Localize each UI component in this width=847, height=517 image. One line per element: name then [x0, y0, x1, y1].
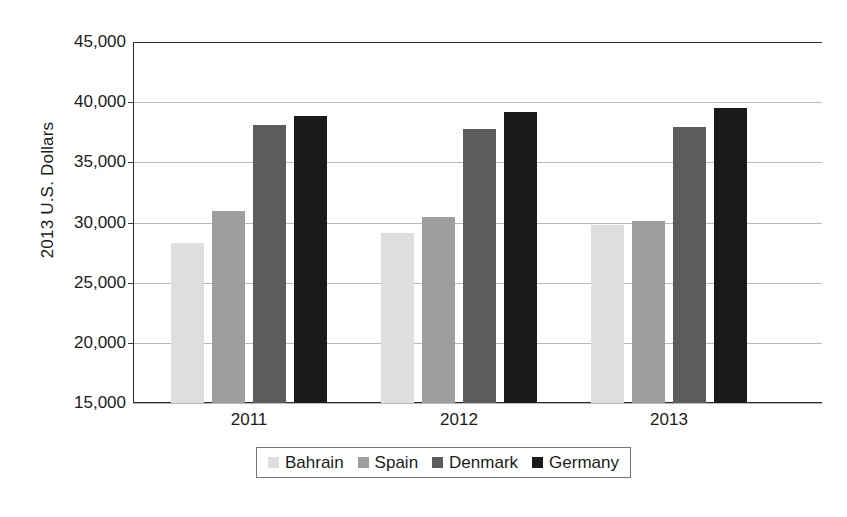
- gridline: [133, 102, 822, 103]
- legend: BahrainSpainDenmarkGermany: [256, 447, 631, 478]
- bar-germany-2011: [294, 116, 327, 403]
- bar-germany-2012: [504, 112, 537, 403]
- y-axis-tick-label: 40,000: [40, 92, 126, 112]
- y-axis-tick-label: 20,000: [40, 333, 126, 353]
- x-axis-tick-labels: 201120122013: [133, 410, 822, 438]
- legend-item-germany: Germany: [532, 453, 619, 473]
- x-axis-tick-label: 2013: [609, 410, 729, 430]
- bar-bahrain-2012: [381, 233, 414, 403]
- y-axis-tick-label: 15,000: [40, 393, 126, 413]
- legend-label: Denmark: [449, 453, 518, 473]
- legend-label: Spain: [375, 453, 418, 473]
- gridline: [133, 42, 822, 43]
- x-axis-tick-label: 2012: [399, 410, 519, 430]
- legend-item-spain: Spain: [358, 453, 418, 473]
- legend-label: Bahrain: [285, 453, 344, 473]
- gridline: [133, 403, 822, 404]
- bar-denmark-2013: [673, 127, 706, 403]
- y-axis-tick-label: 35,000: [40, 152, 126, 172]
- legend-label: Germany: [549, 453, 619, 473]
- y-axis-line: [133, 42, 134, 403]
- legend-item-denmark: Denmark: [432, 453, 518, 473]
- bar-spain-2011: [212, 211, 245, 403]
- bar-germany-2013: [714, 108, 747, 403]
- y-axis-tick-label: 45,000: [40, 32, 126, 52]
- legend-swatch-icon: [268, 457, 279, 468]
- x-axis-tick-label: 2011: [189, 410, 309, 430]
- legend-swatch-icon: [532, 457, 543, 468]
- bar-bahrain-2013: [591, 225, 624, 403]
- legend-swatch-icon: [358, 457, 369, 468]
- legend-swatch-icon: [432, 457, 443, 468]
- y-axis-tick-label: 25,000: [40, 273, 126, 293]
- plot-area: [133, 42, 822, 403]
- y-axis-tick-labels: 45,00040,00035,00030,00025,00020,00015,0…: [34, 42, 126, 403]
- bar-spain-2013: [632, 221, 665, 403]
- legend-item-bahrain: Bahrain: [268, 453, 344, 473]
- bar-denmark-2011: [253, 125, 286, 403]
- bar-denmark-2012: [463, 129, 496, 403]
- bar-bahrain-2011: [171, 243, 204, 403]
- bar-chart: 2013 U.S. Dollars 45,00040,00035,00030,0…: [0, 0, 847, 517]
- y-axis-tick-label: 30,000: [40, 213, 126, 233]
- bar-spain-2012: [422, 217, 455, 403]
